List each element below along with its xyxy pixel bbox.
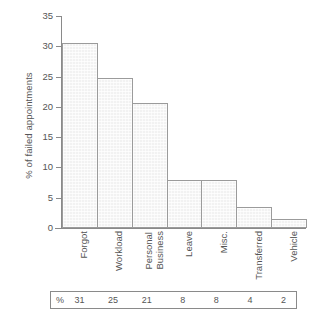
y-axis-tick-label: 5 — [48, 192, 53, 203]
table-cell-value: 4 — [225, 295, 253, 305]
x-axis-category-label-line: Vehicle — [288, 231, 299, 262]
bar-chart-figure: % of failed appointments 05101520253035 … — [0, 0, 329, 325]
x-axis-category-label: PersonalBusiness — [132, 229, 167, 291]
x-axis-category-label-text: Misc. — [219, 231, 230, 253]
x-axis-category-label-line: Personal — [143, 232, 154, 270]
x-axis-category-label: Workload — [97, 229, 132, 291]
y-axis-tick-label: 25 — [42, 71, 53, 82]
x-axis-category-label: Misc. — [201, 229, 236, 291]
x-axis-category-label-text: Workload — [114, 231, 125, 271]
bar — [97, 78, 133, 228]
y-axis-title: % of failed appointments — [23, 46, 34, 206]
x-axis-category-label-text: Leave — [184, 231, 195, 257]
table-cell-value: 2 — [258, 295, 286, 305]
data-value-table: % 3125218842 — [50, 291, 297, 309]
table-cell-value: 25 — [91, 295, 119, 305]
x-axis-category-label: Forgot — [62, 229, 97, 291]
y-axis-tick-label: 0 — [48, 222, 53, 233]
bar — [236, 207, 272, 228]
x-axis-category-label-text: Transferred — [254, 231, 265, 280]
bar — [132, 103, 168, 228]
x-axis-category-label-line: Forgot — [78, 231, 89, 258]
table-cell-value: 21 — [124, 295, 152, 305]
x-axis-category-label-text: PersonalBusiness — [144, 231, 165, 270]
x-axis-category-label-line: Leave — [183, 231, 194, 257]
table-cell-value: 8 — [191, 295, 219, 305]
plot-area: 05101520253035 — [62, 16, 306, 228]
table-cell-value: 8 — [158, 295, 186, 305]
bar-series — [62, 16, 306, 228]
table-row: % 3125218842 — [51, 292, 296, 308]
x-axis-category-label: Transferred — [236, 229, 271, 291]
x-axis-category-label-line: Misc. — [218, 231, 229, 253]
y-axis-tick-label: 35 — [42, 10, 53, 21]
y-axis-tick-label: 10 — [42, 161, 53, 172]
x-axis-category-label-text: Vehicle — [289, 231, 300, 262]
x-axis-category-label-text: Forgot — [79, 231, 90, 258]
bar — [201, 180, 237, 228]
y-axis-tick-label: 20 — [42, 101, 53, 112]
x-axis-category-labels: ForgotWorkloadPersonalBusinessLeaveMisc.… — [62, 229, 306, 291]
x-axis-category-label-line: Transferred — [253, 231, 264, 280]
x-axis-category-label: Leave — [167, 229, 202, 291]
x-axis-category-label: Vehicle — [271, 229, 306, 291]
bar — [167, 180, 203, 228]
bar — [271, 219, 307, 228]
x-axis-category-label-line: Workload — [113, 231, 124, 271]
y-axis-tick-label: 15 — [42, 131, 53, 142]
y-axis-tick-label: 30 — [42, 40, 53, 51]
bar — [62, 43, 98, 228]
table-cell-value: 31 — [57, 295, 85, 305]
x-axis-category-label-line: Business — [155, 231, 166, 270]
